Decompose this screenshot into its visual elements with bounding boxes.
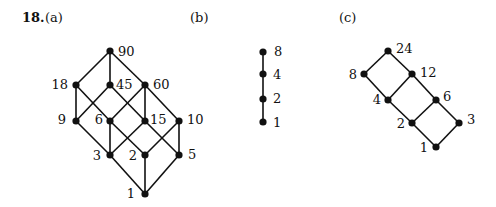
hasse-diagram-b: 8421	[259, 44, 282, 130]
node-label-6: 6	[443, 89, 451, 104]
edge-3-1	[436, 123, 459, 147]
node-label-60: 60	[153, 77, 170, 92]
node-label-3: 3	[93, 148, 101, 163]
node-label-1: 1	[420, 140, 428, 155]
node-label-90: 90	[118, 44, 135, 59]
node-18	[72, 81, 79, 88]
node-4	[384, 96, 391, 103]
node-label-2: 2	[397, 116, 405, 131]
node-2	[141, 151, 148, 158]
node-label-10: 10	[187, 112, 204, 127]
node-1	[141, 190, 148, 197]
node-8	[259, 48, 266, 55]
node-3	[106, 151, 113, 158]
node-9	[72, 117, 79, 124]
node-1	[432, 143, 439, 150]
node-label-4: 4	[273, 67, 281, 82]
hasse-diagram-c: 2481246231	[349, 41, 476, 155]
node-label-4: 4	[373, 92, 381, 107]
hasse-diagrams: 901845609615103251 8421 2481246231	[0, 0, 496, 207]
node-15	[141, 117, 148, 124]
node-label-9: 9	[58, 112, 66, 127]
edge-12-4	[388, 74, 412, 100]
node-5	[175, 151, 182, 158]
node-60	[141, 81, 148, 88]
node-label-15: 15	[150, 112, 167, 127]
node-label-18: 18	[51, 77, 68, 92]
node-10	[175, 117, 182, 124]
edge-5-1	[145, 155, 179, 194]
edge-6-2	[412, 100, 436, 123]
node-label-2: 2	[273, 91, 281, 106]
node-label-45: 45	[116, 77, 133, 92]
node-3	[455, 119, 462, 126]
node-label-5: 5	[188, 147, 196, 162]
node-12	[408, 70, 415, 77]
edge-90-18	[76, 51, 110, 85]
node-2	[259, 95, 266, 102]
node-label-24: 24	[396, 41, 413, 56]
node-label-1: 1	[273, 115, 281, 130]
node-label-6: 6	[95, 112, 103, 127]
node-label-12: 12	[420, 65, 437, 80]
node-90	[106, 47, 113, 54]
node-24	[384, 47, 391, 54]
node-label-2: 2	[129, 148, 137, 163]
node-label-8: 8	[349, 67, 357, 82]
node-8	[360, 70, 367, 77]
node-4	[259, 70, 266, 77]
edge-24-8	[364, 51, 388, 74]
node-6	[432, 96, 439, 103]
node-2	[408, 119, 415, 126]
node-label-1: 1	[127, 186, 135, 201]
hasse-diagram-a: 901845609615103251	[51, 44, 203, 201]
node-label-8: 8	[274, 44, 282, 59]
node-1	[259, 118, 266, 125]
node-label-3: 3	[467, 112, 475, 127]
node-6	[106, 117, 113, 124]
node-45	[106, 81, 113, 88]
